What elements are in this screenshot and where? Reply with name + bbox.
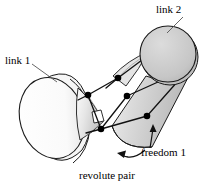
revolute-pair-figure: link 1 link 2 freedom 1 revolute pair [0, 0, 214, 189]
label-link-2: link 2 [156, 4, 181, 15]
joint-dot [115, 75, 122, 82]
revolute-pair-diagram [0, 0, 214, 189]
link2-end-cap [140, 26, 198, 85]
joint-dot [85, 92, 92, 99]
joint-dot [124, 93, 131, 100]
label-freedom-1: freedom 1 [141, 147, 186, 158]
label-link-1: link 1 [5, 55, 30, 66]
joint-dot [144, 113, 151, 120]
joint-dot [98, 126, 105, 133]
figure-caption: revolute pair [0, 170, 214, 181]
